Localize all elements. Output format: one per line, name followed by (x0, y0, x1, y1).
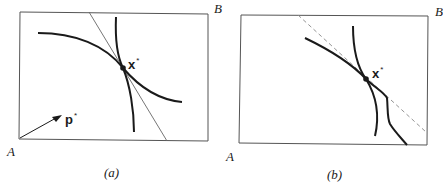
panel-a-point-label: x* (128, 57, 139, 71)
panel-a-price-vector-arrow (20, 118, 56, 138)
caption-text: (b) (327, 167, 342, 182)
panel-a-corner-label-B: B (214, 2, 222, 15)
panel-b-origin-label-A: A (226, 150, 234, 163)
panel-b-point-label: x* (372, 66, 383, 80)
point-label-superscript: * (136, 56, 139, 65)
panel-b-caption: (b) (327, 168, 342, 181)
point-label-text: x (372, 66, 379, 81)
panel-a-equilibrium-point (120, 65, 126, 71)
panel-a (19, 12, 208, 141)
panel-a-indifference-curve-2 (116, 17, 134, 132)
panel-a-price-line (89, 12, 167, 141)
panel-b (239, 15, 428, 145)
panel-b-corner-label-B: B (435, 5, 443, 18)
caption-text: (a) (104, 165, 119, 180)
panel-a-vector-label: p* (65, 112, 77, 126)
point-label-superscript: * (380, 65, 383, 74)
vector-label-superscript: * (74, 111, 77, 120)
panel-a-origin-label-A: A (7, 145, 15, 158)
panel-b-box-frame (239, 15, 428, 145)
panel-a-indifference-curve-1 (38, 33, 182, 102)
panel-a-caption: (a) (104, 166, 119, 179)
edgeworth-box-figure (0, 0, 443, 185)
point-label-text: x (128, 57, 135, 72)
vector-label-text: p (65, 112, 73, 127)
panel-a-box-frame (19, 12, 208, 141)
panel-b-equilibrium-point (363, 76, 369, 82)
arrow-head-icon (52, 115, 62, 122)
